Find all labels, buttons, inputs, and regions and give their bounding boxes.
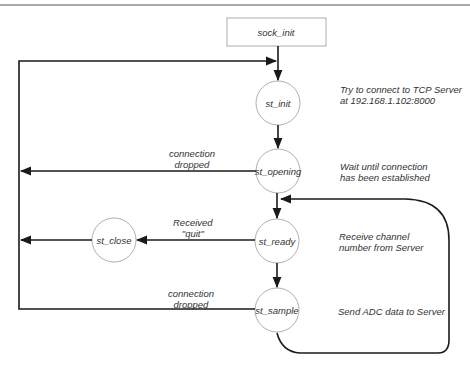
edge-label-sample-dropped: connection dropped <box>168 288 214 310</box>
label-st-close: st_close <box>97 235 132 246</box>
edge-stsample-dropped-bus <box>19 61 276 309</box>
label-sock-init: sock_init <box>258 27 295 38</box>
annotation-st-opening: Wait until connection has been establish… <box>340 161 430 183</box>
edge-stsample-loop <box>277 199 449 353</box>
annotation-st-ready: Receive channel number from Server <box>339 231 423 253</box>
edge-label-ready-quit: Received "quit" <box>173 217 213 239</box>
label-st-ready: st_ready <box>259 236 295 247</box>
label-st-opening: st_opening <box>255 166 301 177</box>
annotation-st-init: Try to connect to TCP Server at 192.168.… <box>340 84 462 106</box>
label-st-sample: st_sample <box>255 305 298 316</box>
annotation-st-sample: Send ADC data to Server <box>338 306 445 317</box>
label-st-init: st_init <box>266 98 291 109</box>
edge-label-opening-dropped: connection dropped <box>169 148 215 170</box>
